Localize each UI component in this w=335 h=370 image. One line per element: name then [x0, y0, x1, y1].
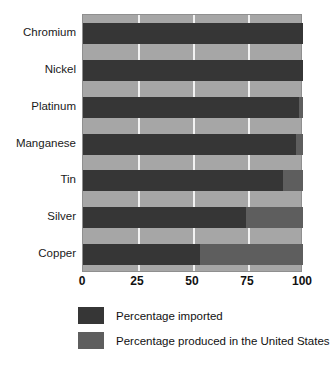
bar-segment-imported [83, 244, 200, 265]
legend-label: Percentage imported [116, 310, 223, 322]
y-axis-category-labels: ChromiumNickelPlatinumManganeseTinSilver… [0, 14, 76, 272]
y-axis-label-nickel: Nickel [0, 59, 76, 80]
bar-row [83, 170, 301, 191]
plot-area [82, 14, 302, 272]
x-axis: 0255075100 [82, 272, 302, 292]
bar-segment-imported [83, 23, 303, 44]
bar-segment-imported [83, 207, 246, 228]
bar-segment-domestic [246, 207, 303, 228]
chart-figure: ChromiumNickelPlatinumManganeseTinSilver… [0, 0, 335, 370]
legend-label: Percentage produced in the United States [116, 335, 330, 347]
y-axis-label-platinum: Platinum [0, 96, 76, 117]
bar-segment-domestic [283, 170, 303, 191]
y-axis-label-manganese: Manganese [0, 133, 76, 154]
bar-row [83, 60, 301, 81]
bar-row [83, 244, 301, 265]
bar-row [83, 23, 301, 44]
bar-segment-domestic [296, 134, 303, 155]
bar-row [83, 207, 301, 228]
bar-segment-imported [83, 97, 299, 118]
x-tick-label-25: 25 [130, 274, 143, 288]
legend-item: Percentage produced in the United States [78, 328, 328, 353]
y-axis-label-chromium: Chromium [0, 22, 76, 43]
x-tick-label-50: 50 [185, 274, 198, 288]
legend-swatch-imported [78, 307, 104, 324]
bar-segment-imported [83, 134, 296, 155]
legend-item: Percentage imported [78, 303, 328, 328]
bar-row [83, 97, 301, 118]
x-tick-label-0: 0 [79, 274, 86, 288]
plot-wrapper [82, 14, 302, 272]
bar-segment-domestic [200, 244, 303, 265]
y-axis-label-silver: Silver [0, 206, 76, 227]
y-axis-label-copper: Copper [0, 243, 76, 264]
x-tick-label-75: 75 [240, 274, 253, 288]
chart-legend: Percentage importedPercentage produced i… [78, 303, 328, 353]
bar-segment-domestic [299, 97, 303, 118]
x-tick-label-100: 100 [292, 274, 312, 288]
bar-rows [83, 15, 301, 271]
bar-segment-imported [83, 60, 303, 81]
bar-segment-imported [83, 170, 283, 191]
legend-swatch-domestic [78, 332, 104, 349]
y-axis-label-tin: Tin [0, 169, 76, 190]
bar-row [83, 134, 301, 155]
